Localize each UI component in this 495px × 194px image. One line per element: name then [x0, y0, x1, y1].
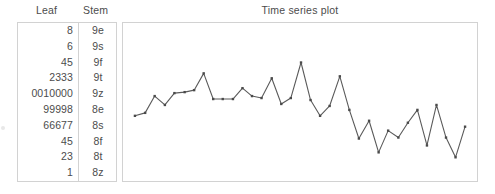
data-point	[290, 97, 292, 99]
stem-value: 9s	[79, 39, 117, 55]
data-point	[397, 136, 399, 138]
data-point	[454, 156, 456, 158]
time-series-plot-panel	[122, 22, 478, 182]
data-point	[183, 91, 185, 93]
data-point	[377, 151, 379, 153]
table-row: 238t	[18, 149, 116, 165]
stem-value: 8e	[79, 102, 117, 118]
table-row: 458f	[18, 134, 116, 150]
data-point	[368, 120, 370, 122]
data-point	[173, 92, 175, 94]
table-row: 666778s	[18, 118, 116, 134]
leaf-value: 2333	[18, 70, 73, 86]
leaf-column-header: Leaf	[36, 4, 57, 16]
data-point	[300, 61, 302, 63]
edge-artifact-mark	[1, 126, 5, 130]
table-row: 23339t	[18, 70, 116, 86]
leaf-value: 23	[18, 149, 73, 165]
data-point	[153, 95, 155, 97]
leaf-value: 66677	[18, 118, 73, 134]
table-row: 18z	[18, 165, 116, 181]
stem-leaf-rows: 89e69s459f23339t00100009z999988e666778s4…	[18, 23, 116, 181]
table-row: 459f	[18, 55, 116, 71]
table-row: 89e	[18, 23, 116, 39]
data-point	[309, 99, 311, 101]
data-point	[260, 97, 262, 99]
data-point	[445, 136, 447, 138]
leaf-value: 45	[18, 134, 73, 150]
stem-column-header: Stem	[83, 4, 108, 16]
leaf-value: 6	[18, 39, 73, 55]
series-markers	[134, 61, 467, 158]
time-series-chart	[123, 23, 477, 181]
data-point	[164, 104, 166, 106]
table-row: 999988e	[18, 102, 116, 118]
data-point	[348, 109, 350, 111]
page-title: Time series plot	[122, 4, 478, 16]
stem-value: 9t	[79, 70, 117, 86]
stem-value: 8z	[79, 165, 117, 181]
data-point	[426, 144, 428, 146]
series-line	[135, 63, 465, 158]
stem-leaf-timeseries-figure: Leaf Stem 89e69s459f23339t00100009z99998…	[0, 0, 495, 194]
data-point	[358, 137, 360, 139]
data-point	[232, 98, 234, 100]
data-point	[144, 112, 146, 114]
leaf-value: 0010000	[18, 86, 73, 102]
data-point	[251, 95, 253, 97]
leaf-value: 1	[18, 165, 73, 181]
table-row: 00100009z	[18, 86, 116, 102]
data-point	[407, 122, 409, 124]
table-row: 69s	[18, 39, 116, 55]
data-point	[328, 105, 330, 107]
leaf-value: 45	[18, 55, 73, 71]
stem-value: 8s	[79, 118, 117, 134]
data-point	[212, 98, 214, 100]
data-point	[193, 89, 195, 91]
leaf-value: 8	[18, 23, 73, 39]
stem-value: 8f	[79, 134, 117, 150]
stem-value: 9z	[79, 86, 117, 102]
data-point	[134, 115, 136, 117]
stem-value: 9e	[79, 23, 117, 39]
stem-value: 9f	[79, 55, 117, 71]
stem-value: 8t	[79, 149, 117, 165]
data-point	[271, 77, 273, 79]
leaf-value: 99998	[18, 102, 73, 118]
data-point	[222, 98, 224, 100]
data-point	[435, 104, 437, 106]
data-point	[280, 103, 282, 105]
stem-leaf-header-row: Leaf Stem	[17, 4, 118, 22]
data-point	[387, 129, 389, 131]
data-point	[241, 87, 243, 89]
data-point	[319, 115, 321, 117]
data-point	[464, 126, 466, 128]
stem-leaf-table: 89e69s459f23339t00100009z999988e666778s4…	[17, 22, 117, 182]
data-point	[202, 72, 204, 74]
data-point	[416, 109, 418, 111]
data-point	[339, 75, 341, 77]
